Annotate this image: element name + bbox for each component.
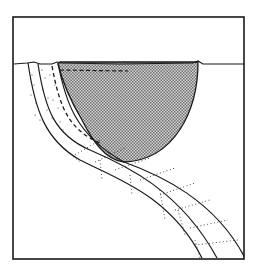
diagram-canvas xyxy=(0,0,258,270)
cross-section-diagram xyxy=(0,0,258,270)
shaded-basin-body xyxy=(58,62,198,162)
